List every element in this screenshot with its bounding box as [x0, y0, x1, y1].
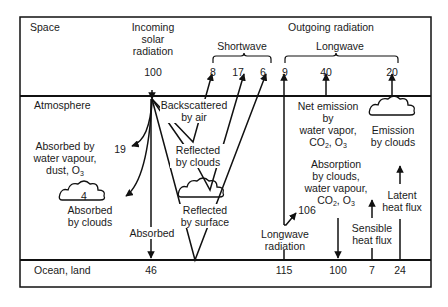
incoming-value: 100 — [140, 66, 166, 78]
longwave-label: Longwave — [310, 40, 370, 52]
absorbed-wv-value: 19 — [112, 143, 128, 155]
reflected-surface-label: Reflected by surface — [172, 204, 238, 228]
sensible-heat-label: Sensible heat flux — [346, 222, 398, 246]
cloud-reflect-arrow — [152, 74, 244, 190]
absorbed-surface-label: Absorbed — [124, 227, 180, 239]
shortwave-value-surface: 6 — [256, 66, 270, 78]
reflected-clouds-label: Reflected by clouds — [170, 144, 226, 168]
absorbed-clouds-label: Absorbed by clouds — [60, 204, 120, 228]
incoming-label: Incoming solar radiation — [128, 21, 178, 57]
longwave-value-surface: 9 — [278, 66, 292, 78]
shortwave-value-clouds: 17 — [230, 66, 246, 78]
longwave-value-clouds: 20 — [382, 66, 402, 78]
absorbed-clouds-arrow — [126, 99, 152, 196]
surface-latent-value: 24 — [390, 264, 410, 276]
longwave-value-net-emission: 40 — [316, 66, 336, 78]
zone-atmosphere-label: Atmosphere — [34, 99, 91, 111]
surface-absorbed-value: 46 — [140, 264, 162, 276]
longwave-radiation-label: Longwave radiation — [258, 228, 312, 252]
absorption-106-arrow — [284, 213, 296, 225]
absorption-value: 106 — [296, 204, 318, 216]
net-emission-label: Net emission by water vapor, CO2, O3 — [296, 100, 360, 148]
shortwave-brace — [213, 53, 271, 63]
shortwave-label: Shortwave — [212, 40, 272, 52]
backscattered-label: Backscattered by air — [160, 99, 228, 123]
absorption-label: Absorption by clouds, water vapour, CO2,… — [304, 158, 368, 206]
surface-longwave-value: 115 — [272, 264, 296, 276]
surface-sensible-value: 7 — [366, 264, 378, 276]
absorbed-clouds-value: 4 — [78, 190, 90, 202]
cloud-reflect-icon — [178, 178, 223, 197]
latent-heat-label: Latent heat flux — [378, 189, 426, 213]
longwave-brace — [285, 53, 398, 63]
outgoing-label: Outgoing radiation — [276, 21, 386, 33]
cloud-emission-icon — [369, 96, 414, 115]
emission-clouds-label: Emission by clouds — [368, 124, 418, 148]
zone-surface-label: Ocean, land — [34, 264, 91, 276]
zone-space-label: Space — [30, 21, 60, 33]
surface-back-radiation-value: 100 — [326, 264, 350, 276]
absorbed-wv-label: Absorbed by water vapour, dust, O3 — [28, 140, 102, 176]
shortwave-value-backscatter: 8 — [206, 66, 220, 78]
